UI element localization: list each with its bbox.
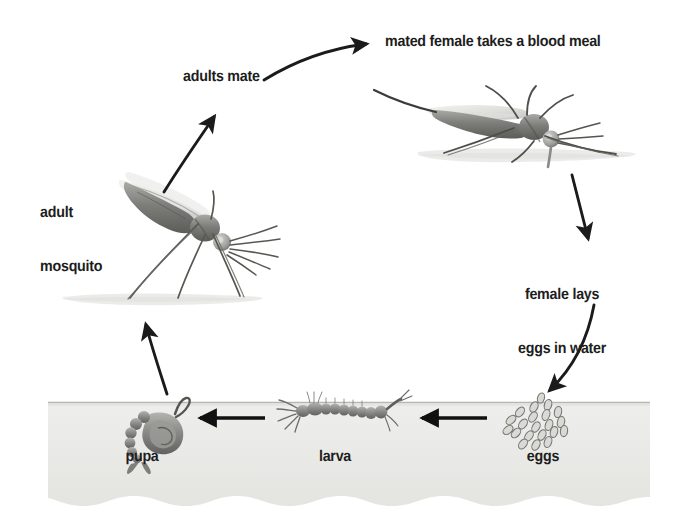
- label-female-lays-line2: eggs in water: [518, 340, 606, 358]
- label-female-lays-line1: female lays: [518, 286, 606, 304]
- label-larva: larva: [307, 448, 362, 466]
- arrow-mate-to-blood-meal: [264, 44, 366, 80]
- mosquito-proboscis-antennae: [227, 226, 280, 275]
- label-female-lays-eggs: female lays eggs in water: [518, 249, 606, 395]
- label-blood-meal: mated female takes a blood meal: [385, 33, 601, 51]
- label-pupa: pupa: [114, 448, 169, 466]
- label-adult-mosquito-line2: mosquito: [40, 258, 102, 276]
- arrow-adult-to-mate: [164, 117, 214, 192]
- arrow-blood-meal-to-lays: [572, 175, 588, 238]
- label-adult-mosquito-line1: adult: [40, 204, 102, 222]
- label-adults-mate: adults mate: [183, 68, 260, 86]
- label-adult-mosquito: adult mosquito: [40, 167, 102, 313]
- mosquito-resting-icon: [119, 172, 280, 299]
- mosquito-life-cycle-diagram: mated female takes a blood meal adults m…: [0, 0, 687, 525]
- arrow-pupa-to-adult: [146, 325, 167, 394]
- feeding-proboscis-tail: [374, 90, 436, 112]
- label-eggs: eggs: [515, 448, 570, 466]
